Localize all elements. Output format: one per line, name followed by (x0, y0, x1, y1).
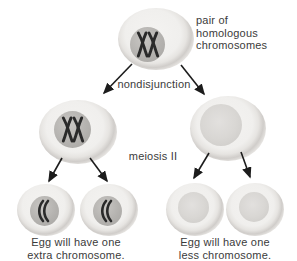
meiosis1-right-cell (190, 96, 266, 161)
egg-less-cell-1 (166, 183, 224, 236)
egg-extra-caption: Egg will have one extra chromosome. (15, 236, 137, 261)
egg-less-caption: Egg will have one less chromosome. (164, 236, 286, 261)
nondisjunction-label: nondisjunction (112, 78, 196, 91)
nondisjunction-diagram: pair of homologous chromosomes nondisjun… (0, 0, 297, 261)
parent-nucleus (130, 27, 165, 62)
meiosis1-right-nucleus (200, 104, 242, 146)
egg-less-nucleus-1 (178, 192, 209, 223)
egg-extra-cell-1 (17, 184, 75, 236)
extra-chromosome-icon (96, 199, 116, 223)
meiosis2-arrow-1 (49, 158, 62, 181)
meiosis1-left-nucleus (54, 111, 91, 148)
meiosis1-left-cell (39, 100, 117, 164)
egg-extra-cell-2 (80, 184, 138, 236)
meiosis2-arrow-3 (194, 153, 209, 178)
egg-extra-nucleus-2 (93, 196, 122, 226)
egg-extra-nucleus-1 (30, 196, 59, 226)
egg-less-cell-2 (226, 183, 284, 236)
homologous-chromosome-pair-icon (134, 30, 161, 59)
egg-less-nucleus-2 (239, 192, 269, 222)
meiosis-ii-label: meiosis II (117, 150, 189, 163)
parent-cell (118, 8, 194, 70)
homologous-chromosome-pair-icon (59, 115, 86, 144)
extra-chromosome-icon (33, 199, 53, 223)
pair-of-homologous-chromosomes-label: pair of homologous chromosomes (196, 14, 294, 52)
